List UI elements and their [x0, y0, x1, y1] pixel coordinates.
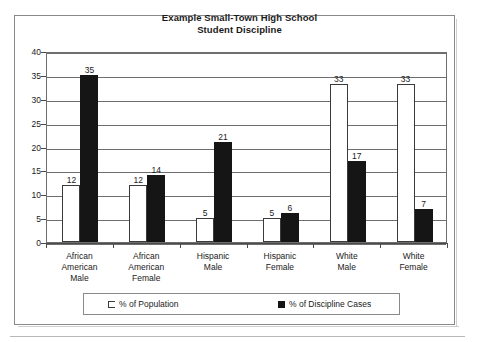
- x-axis-category-label: WhiteMale: [313, 251, 380, 273]
- bar-discipline: [281, 213, 299, 242]
- x-axis-category-label: HispanicFemale: [247, 251, 314, 273]
- bar-value-label: 7: [409, 200, 439, 209]
- x-axis-category-label-line: Female: [113, 273, 180, 284]
- x-axis-category-label-line: Male: [46, 273, 113, 284]
- gridline-30: [47, 101, 446, 102]
- bar-value-label: 21: [208, 133, 238, 142]
- bar-population: [62, 185, 80, 242]
- bar-value-label: 33: [324, 75, 354, 84]
- bar-population: [397, 84, 415, 242]
- legend-label-discipline: % of Discipline Cases: [289, 299, 371, 309]
- bar-population: [330, 84, 348, 242]
- x-axis-category-label-line: White: [380, 251, 447, 262]
- x-axis-tick-mark: [113, 243, 114, 248]
- bar-value-label: 33: [391, 75, 421, 84]
- bar-discipline: [415, 209, 433, 242]
- x-axis-category-label-line: American: [113, 262, 180, 273]
- gridline-15: [47, 172, 446, 173]
- gridline-10: [47, 196, 446, 197]
- filled-square-icon: [278, 301, 285, 308]
- bar-population: [263, 218, 281, 242]
- x-axis-category-label-line: African: [113, 251, 180, 262]
- bar-value-label: 14: [141, 166, 171, 175]
- bar-population: [196, 218, 214, 242]
- bar-value-label: 17: [342, 152, 372, 161]
- bar-discipline: [214, 142, 232, 242]
- legend-label-population: % of Population: [119, 299, 179, 309]
- bar-discipline: [80, 75, 98, 242]
- chart-title-line-1: Example Small-Town High School: [0, 12, 479, 24]
- plot-area: 12351214521563317337: [46, 52, 447, 243]
- legend-entry-discipline: % of Discipline Cases: [278, 299, 371, 309]
- y-axis-ticks: [0, 52, 46, 243]
- x-axis-category-label-line: African: [46, 251, 113, 262]
- frame-shadow-bottom: [18, 326, 459, 327]
- x-axis-category-label-line: White: [313, 251, 380, 262]
- chart-title: Example Small-Town High School Student D…: [0, 12, 479, 36]
- bar-value-label: 6: [275, 204, 305, 213]
- gridline-35: [47, 77, 446, 78]
- bar-value-label: 35: [74, 66, 104, 75]
- x-axis-tick-mark: [313, 243, 314, 248]
- gridline-40: [47, 53, 446, 54]
- x-axis-tick-mark: [247, 243, 248, 248]
- chart-legend: % of Population % of Discipline Cases: [83, 293, 400, 315]
- page-horizontal-rule: [10, 336, 465, 337]
- gridline-20: [47, 149, 446, 150]
- x-axis-tick-mark: [180, 243, 181, 248]
- gridline-25: [47, 125, 446, 126]
- bar-discipline: [348, 161, 366, 242]
- gridline-5: [47, 220, 446, 221]
- bar-discipline: [147, 175, 165, 242]
- x-axis-category-label-line: Female: [247, 262, 314, 273]
- x-axis-category-label: AfricanAmericanMale: [46, 251, 113, 284]
- x-axis-category-label: HispanicMale: [180, 251, 247, 273]
- x-axis-category-label-line: Male: [313, 262, 380, 273]
- x-axis-category-label-line: Female: [380, 262, 447, 273]
- hollow-square-icon: [108, 301, 115, 308]
- x-axis-category-label-line: Male: [180, 262, 247, 273]
- legend-entry-population: % of Population: [108, 299, 179, 309]
- x-axis-category-label-line: Hispanic: [180, 251, 247, 262]
- frame-shadow-right: [456, 19, 457, 327]
- x-axis-category-label-line: American: [46, 262, 113, 273]
- x-axis-category-label: WhiteFemale: [380, 251, 447, 273]
- x-axis-tick-mark: [46, 243, 47, 248]
- bar-population: [129, 185, 147, 242]
- x-axis-category-label: AfricanAmericanFemale: [113, 251, 180, 284]
- chart-title-line-2: Student Discipline: [0, 24, 479, 36]
- x-axis-category-label-line: Hispanic: [247, 251, 314, 262]
- x-axis-tick-mark: [447, 243, 448, 248]
- x-axis-tick-mark: [380, 243, 381, 248]
